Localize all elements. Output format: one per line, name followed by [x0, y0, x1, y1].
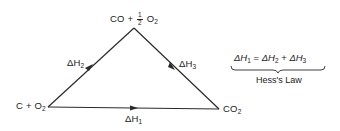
hess-law-label: Hess's Law	[256, 75, 302, 85]
equation-term1: ΔH	[262, 52, 275, 63]
equation-term2-subscript: 3	[303, 57, 307, 64]
label-delta-h1: ΔH1	[125, 114, 142, 126]
delta-h2-text: ΔH	[67, 57, 81, 68]
edge-top-to-right	[134, 28, 219, 109]
equation-lhs: ΔH	[234, 52, 247, 63]
enthalpy-cycle-diagram	[0, 0, 340, 131]
equation-plus: +	[279, 52, 290, 63]
delta-h1-text: ΔH	[125, 113, 139, 124]
node-right-subscript: 2	[238, 108, 242, 115]
node-right-text: CO	[223, 103, 238, 114]
label-delta-h2: ΔH2	[67, 58, 84, 70]
node-left-text: C + O	[16, 100, 42, 111]
fraction-one-half: 12	[137, 12, 143, 26]
hess-equation: ΔH1 = ΔH2 + ΔH3	[234, 52, 306, 64]
fraction-denominator: 2	[137, 20, 143, 27]
delta-h3-text: ΔH	[179, 58, 193, 69]
node-co2: CO2	[223, 104, 241, 116]
equation-equals: =	[251, 52, 262, 63]
underbrace	[231, 66, 325, 73]
node-top-subscript: 2	[154, 18, 158, 25]
delta-h1-subscript: 1	[139, 118, 143, 125]
node-top-prefix: CO +	[110, 13, 136, 24]
delta-h3-subscript: 3	[193, 63, 197, 70]
node-left-subscript: 2	[42, 105, 46, 112]
node-co-half-o2: CO + 12 O2	[110, 12, 158, 26]
equation-term2: ΔH	[289, 52, 302, 63]
node-c-plus-o2: C + O2	[16, 101, 46, 113]
delta-h2-subscript: 2	[81, 62, 85, 69]
label-delta-h3: ΔH3	[179, 59, 196, 71]
arrow-icon-dh1	[130, 106, 138, 111]
